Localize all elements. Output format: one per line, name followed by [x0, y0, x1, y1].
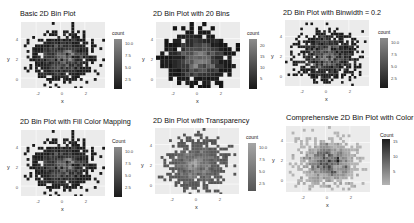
bin-cell: [303, 68, 306, 71]
bin-cell: [71, 166, 74, 169]
bin-cell: [203, 170, 206, 173]
bin-cell: [359, 63, 362, 66]
bin-cell: [74, 64, 77, 67]
bin-cell: [341, 51, 344, 54]
bin-cell: [219, 39, 223, 43]
legend-tick: 20: [260, 43, 265, 48]
bin-cell: [322, 171, 325, 174]
bin-cell: [219, 192, 222, 194]
bin-cell: [83, 42, 86, 45]
bin-cell: [186, 176, 189, 179]
bin-cell: [71, 138, 74, 141]
bin-cell: [331, 157, 334, 160]
bin-cell: [169, 178, 172, 181]
bin-cell: [60, 58, 63, 61]
bin-cell: [181, 60, 185, 64]
bin-cell: [85, 169, 88, 172]
bin-cell: [57, 166, 60, 169]
bin-cell: [46, 78, 49, 81]
bin-cell: [52, 67, 55, 70]
bin-cell: [88, 67, 91, 70]
bin-cell: [346, 43, 349, 46]
bin-cell: [208, 148, 211, 151]
bin-cell: [189, 139, 192, 142]
plot-area: [155, 128, 239, 194]
bin-cell: [83, 138, 86, 141]
bin-cell: [328, 157, 331, 160]
bin-cell: [202, 68, 206, 72]
bin-cell: [80, 158, 83, 161]
bin-cell: [313, 66, 316, 69]
bin-cell: [46, 39, 49, 42]
bin-cell: [190, 85, 194, 88]
bin-cell: [43, 180, 46, 183]
bin-cell: [77, 166, 80, 169]
bin-cell: [71, 44, 74, 47]
bin-cell: [334, 176, 337, 179]
bin-cell: [322, 146, 325, 149]
bin-cell: [322, 176, 325, 179]
bin-cell: [71, 36, 74, 39]
bin-cell: [180, 184, 183, 187]
bin-cell: [29, 58, 32, 61]
bin-cell: [57, 172, 60, 175]
bin-cell: [194, 153, 197, 156]
bin-cell: [194, 173, 197, 176]
bin-cell: [77, 150, 80, 153]
bin-cell: [305, 40, 308, 43]
bin-cell: [298, 53, 301, 56]
bin-cell: [52, 152, 55, 155]
bin-cell: [41, 158, 44, 161]
bin-cell: [328, 174, 331, 177]
bin-cell: [323, 66, 326, 69]
bin-cell: [57, 194, 60, 196]
bin-cell: [328, 51, 331, 54]
bin-cell: [173, 47, 177, 51]
panel-comprehensive: Comprehensive 2D Bin Plot with Color 4 2…: [272, 111, 407, 219]
bin-cell: [206, 77, 210, 81]
x-axis-label: x: [61, 98, 64, 104]
bin-cell: [189, 136, 192, 139]
bin-cell: [180, 145, 183, 148]
bin-cell: [38, 155, 41, 158]
bin-cell: [318, 38, 321, 41]
bin-cell: [310, 76, 313, 79]
bin-cell: [183, 173, 186, 176]
bin-cell: [339, 162, 342, 165]
panel-20-bins: 2D Bin Plot with 20 Bins 4 2 0 y -2 0 2 …: [137, 2, 272, 110]
bin-cell: [338, 53, 341, 56]
bin-cell: [183, 176, 186, 179]
bin-cell: [52, 161, 55, 164]
bin-cell: [293, 43, 296, 46]
bin-cell: [316, 30, 319, 33]
bin-cell: [60, 183, 63, 186]
bin-cell: [356, 151, 359, 154]
bin-cell: [334, 174, 337, 177]
bin-cell: [69, 61, 72, 64]
bin-cell: [189, 167, 192, 170]
bin-cell: [300, 143, 303, 146]
bin-cell: [298, 71, 301, 74]
bin-cell: [38, 61, 41, 64]
bin-cell: [189, 162, 192, 165]
bin-cell: [71, 133, 74, 136]
bin-cell: [341, 45, 344, 48]
bin-cell: [185, 81, 189, 85]
bin-cell: [225, 156, 228, 159]
bin-cell: [71, 183, 74, 186]
bin-cell: [320, 151, 323, 154]
bin-cell: [208, 176, 211, 179]
bin-cell: [29, 64, 32, 67]
bin-cell: [63, 152, 66, 155]
bin-cell: [43, 72, 46, 75]
bin-cell: [336, 35, 339, 38]
bin-cell: [316, 33, 319, 36]
bin-cell: [156, 56, 160, 60]
bin-cell: [338, 61, 341, 64]
bin-cell: [194, 56, 198, 60]
bin-cell: [69, 44, 72, 47]
bin-cell: [66, 47, 69, 50]
y-tick: 0: [145, 77, 153, 82]
x-axis-label: x: [195, 204, 198, 210]
bin-cell: [205, 139, 208, 142]
